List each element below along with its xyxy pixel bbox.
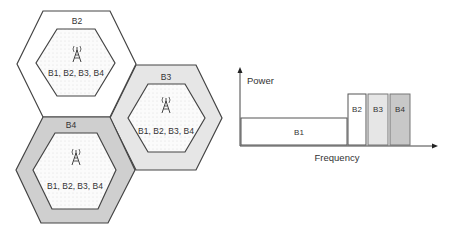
diagram-canvas: B2 B1, B2, B3, B4 B3 B1, B2, B3, B4 B4 B… — [0, 0, 452, 236]
cell-top-inner-label: B1, B2, B3, B4 — [48, 68, 104, 78]
bar-b2-label: B2 — [352, 105, 362, 114]
x-axis-arrow-icon — [432, 144, 438, 149]
x-axis-label: Frequency — [315, 152, 360, 163]
bar-b4 — [390, 94, 410, 145]
bar-b1-label: B1 — [294, 128, 304, 137]
y-axis-arrow-icon — [238, 67, 243, 73]
bar-b3 — [368, 94, 388, 145]
cell-b4 — [16, 117, 135, 223]
spectrum-chart: Power Frequency B1 B2 B3 B4 — [238, 67, 439, 163]
y-axis-label: Power — [247, 75, 274, 86]
cell-bottom-outer-label: B4 — [66, 120, 77, 130]
bar-b3-label: B3 — [373, 105, 383, 114]
cell-right-outer-label: B3 — [161, 72, 172, 82]
bar-b2 — [348, 94, 366, 145]
cell-bottom-inner-label: B1, B2, B3, B4 — [47, 181, 103, 191]
cell-right-inner-label: B1, B2, B3, B4 — [138, 126, 194, 136]
cell-top-outer-label: B2 — [72, 16, 83, 26]
bar-b4-label: B4 — [395, 105, 405, 114]
cell-b2 — [17, 11, 136, 117]
